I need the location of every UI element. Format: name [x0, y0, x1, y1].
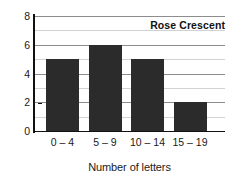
- y-tick-label: 8: [10, 11, 30, 21]
- bar: [46, 59, 79, 131]
- x-axis-ticks: 0 – 45 – 910 – 1415 – 19: [34, 136, 225, 150]
- y-tick-label: 4: [10, 69, 30, 79]
- y-tick-label: 2: [10, 97, 30, 107]
- y-tick-label: 6: [10, 40, 30, 50]
- chart-title: Rose Crescent: [150, 19, 225, 31]
- y-axis-ticks: 02468: [8, 16, 30, 131]
- bar: [89, 45, 122, 131]
- bar-chart: Frequency 02468 0 – 45 – 910 – 1415 – 19…: [0, 0, 233, 183]
- bar: [174, 102, 207, 131]
- y-tick-label: 0: [10, 126, 30, 136]
- bars-layer: [34, 16, 225, 131]
- bar: [131, 59, 164, 131]
- x-tick-label: 15 – 19: [164, 136, 217, 149]
- x-axis-title: Number of letters: [34, 161, 225, 173]
